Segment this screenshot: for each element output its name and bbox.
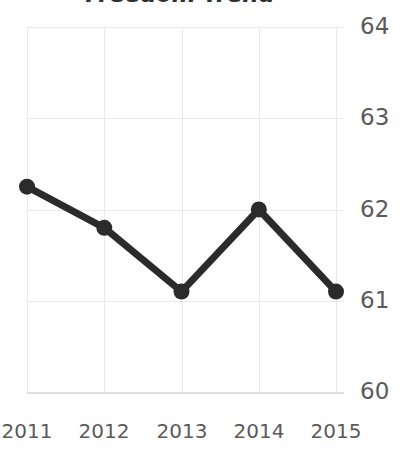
y-axis-tick-label: 60 [360,380,406,403]
x-axis-tick-label: 2014 [221,420,297,442]
x-axis-tick-label: 2013 [144,420,220,442]
y-axis-tick-label: 63 [360,106,406,129]
x-axis-tick-label: 2012 [66,420,142,442]
y-axis-tick-label: 61 [360,289,406,312]
data-point-marker [96,220,112,236]
data-point-marker [19,179,35,195]
y-axis-tick-label: 64 [360,15,406,38]
series-line-freedom-score [27,187,336,292]
x-axis-tick-label: 2015 [298,420,374,442]
y-axis-tick-label: 62 [360,198,406,221]
data-point-marker [174,284,190,300]
data-point-marker [251,202,267,218]
series-markers [19,179,344,300]
x-axis-tick-label: 2011 [0,420,65,442]
data-point-marker [328,284,344,300]
line-chart: Freedom Trend 6463626160 201120122013201… [0,0,407,455]
series-layer [0,0,407,455]
